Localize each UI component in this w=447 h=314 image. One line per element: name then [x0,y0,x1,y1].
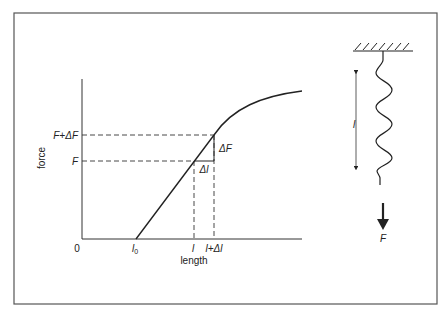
tick-l0-sub: 0 [134,248,138,255]
tick-l: l [192,243,195,254]
y-axis-label: force [36,146,47,169]
spring-length-label: l [353,119,356,130]
delta-f-label: ΔF [218,143,233,154]
spring-force-label: F [380,233,387,244]
tick-f-plus-df: F+ΔF [53,130,79,141]
spring-coil-icon [376,51,392,185]
force-length-figure: force length 0 F+ΔF F l0 l l+Δl ΔF Δl l [0,0,447,314]
spring-diagram: l F [353,43,413,244]
force-arrow-icon [377,219,389,230]
force-length-curve [136,91,302,239]
origin-label: 0 [74,243,80,254]
delta-l-label: Δl [199,164,210,175]
tick-f: F [72,156,79,167]
ceiling-hatch-icon [355,43,409,50]
tick-l-plus-dl: l+Δl [206,243,224,254]
x-axis-label: length [180,255,207,266]
force-length-graph: force length 0 F+ΔF F l0 l l+Δl ΔF Δl [36,79,302,266]
tick-l0: l0 [132,243,138,255]
